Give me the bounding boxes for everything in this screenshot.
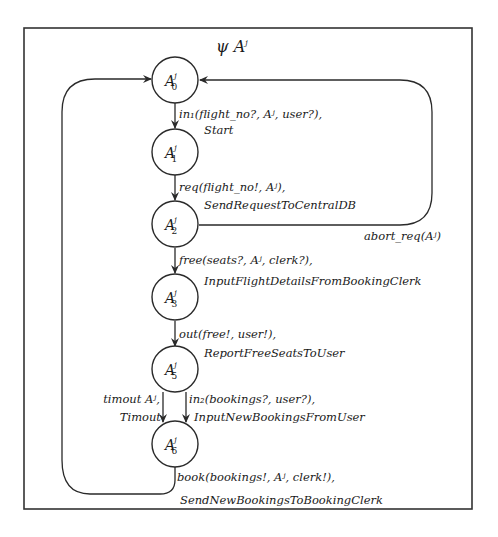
svg-text:Aj3: Aj3 <box>163 288 178 309</box>
edge-label-a0-a1-action: Start <box>204 123 234 137</box>
edge-label-a0-a1-event: in₁(flight_no?, Aʲ, user?), <box>179 107 322 121</box>
edge-label-a1-a2-action: SendRequestToCentralDB <box>204 198 356 212</box>
edge-label-a1-a2-event: req(flight_no!, Aʲ), <box>179 180 285 194</box>
edge-label-a2-a3-event: free(seats?, Aʲ, clerk?), <box>178 253 313 267</box>
svg-text:Aj1: Aj1 <box>163 143 177 164</box>
edge-label-a5-a6-input-event: in₂(bookings?, user?), <box>189 392 315 406</box>
edge-label-a2-a0-event: abort_req(Aʲ) <box>364 229 441 243</box>
edge-label-a2-a3-action: InputFlightDetailsFromBookingClerk <box>203 274 422 288</box>
state-diagram: ψ Aj Aj0 Aj1 Aj2 Aj3 Aj5 Aj6 in₁(flight_… <box>0 0 498 537</box>
state-a3: Aj3 <box>152 274 198 320</box>
svg-text:Aj2: Aj2 <box>163 215 177 236</box>
diagram-title: ψ Aj <box>216 37 248 56</box>
edge-label-a6-a0-action: SendNewBookingsToBookingClerk <box>180 493 383 507</box>
edge-label-a3-a5-action: ReportFreeSeatsToUser <box>203 346 346 360</box>
svg-text:Aj0: Aj0 <box>163 71 178 92</box>
edge-label-a6-a0-event: book(bookings!, Aʲ, clerk!), <box>177 470 335 484</box>
edge-label-a3-a5-event: out(free!, user!), <box>179 327 276 341</box>
svg-text:Aj5: Aj5 <box>163 360 178 381</box>
state-a6: Aj6 <box>152 421 198 467</box>
state-a5: Aj5 <box>152 346 198 392</box>
state-a0: Aj0 <box>152 57 198 103</box>
edge-label-timeout-action: Timout <box>120 410 162 424</box>
svg-text:Aj6: Aj6 <box>163 435 178 456</box>
diagram-frame <box>24 28 472 509</box>
state-a2: Aj2 <box>152 201 198 247</box>
state-a1: Aj1 <box>152 129 198 175</box>
edge-label-timeout-event: timout Aʲ, <box>103 392 160 406</box>
edge-label-a5-a6-input-action: InputNewBookingsFromUser <box>193 410 366 424</box>
